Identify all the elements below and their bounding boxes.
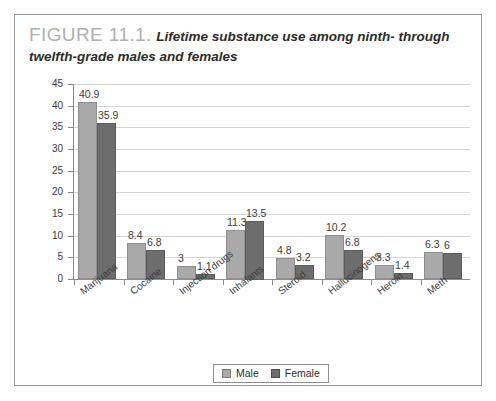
bar-male-marijuana — [78, 102, 97, 279]
bar-value-label: 3 — [178, 253, 184, 264]
bar-value-label: 10.2 — [326, 222, 346, 233]
gridline — [74, 214, 470, 215]
bar-chart: 051015202530354045 40.935.98.46.831.111.… — [15, 73, 481, 385]
y-axis-label: 45 — [17, 79, 63, 89]
y-axis-label: 10 — [17, 231, 63, 241]
gridline — [74, 84, 470, 85]
bar-male-cocaine — [127, 243, 146, 279]
y-axis-tick — [68, 279, 73, 280]
gridline — [74, 127, 470, 128]
x-axis-tick — [322, 280, 323, 285]
gridline — [74, 149, 470, 150]
gridline — [74, 106, 470, 107]
legend-swatch-male-icon — [222, 369, 231, 378]
y-axis-tick — [68, 127, 73, 128]
y-axis-label: 15 — [17, 209, 63, 219]
y-axis-tick — [68, 171, 73, 172]
bar-value-label: 6.8 — [345, 237, 360, 248]
x-axis-tick — [223, 280, 224, 285]
y-axis-tick — [68, 84, 73, 85]
gridline — [74, 192, 470, 193]
legend-label-female: Female — [285, 368, 320, 379]
legend-item-female: Female — [271, 368, 320, 379]
bar-female-meth — [443, 253, 462, 279]
bar-value-label: 8.4 — [128, 230, 143, 241]
y-axis-tick — [68, 257, 73, 258]
y-axis-label: 30 — [17, 144, 63, 154]
y-axis-tick — [68, 236, 73, 237]
bar-female-marijuana — [97, 123, 116, 279]
y-axis-tick — [68, 214, 73, 215]
bar-value-label: 11.3 — [227, 217, 247, 228]
bar-value-label: 6.3 — [425, 239, 440, 250]
y-axis-tick — [68, 192, 73, 193]
y-axis-label: 0 — [17, 274, 63, 284]
x-axis-tick — [272, 280, 273, 285]
x-axis-tick — [74, 280, 75, 285]
bar-value-label: 6 — [444, 240, 450, 251]
figure-caption: FIGURE 11.1. Lifetime substance use amon… — [29, 25, 465, 66]
bar-value-label: 3.2 — [296, 252, 311, 263]
y-axis-label: 35 — [17, 122, 63, 132]
bar-male-hallucinogens — [325, 235, 344, 279]
y-axis-label: 40 — [17, 101, 63, 111]
y-axis-tick — [68, 106, 73, 107]
x-axis-tick — [173, 280, 174, 285]
y-axis-label: 20 — [17, 187, 63, 197]
gridline — [74, 171, 470, 172]
legend-item-male: Male — [222, 368, 259, 379]
x-axis-tick — [371, 280, 372, 285]
bar-value-label: 40.9 — [79, 89, 99, 100]
y-axis-tick — [68, 149, 73, 150]
figure-card: FIGURE 11.1. Lifetime substance use amon… — [14, 14, 482, 386]
bar-value-label: 4.8 — [277, 245, 292, 256]
chart-legend: Male Female — [213, 364, 329, 383]
bar-value-label: 6.8 — [147, 237, 162, 248]
y-axis-label: 5 — [17, 252, 63, 262]
legend-label-male: Male — [236, 368, 259, 379]
x-axis-tick — [124, 280, 125, 285]
y-axis-line — [73, 84, 74, 280]
bar-value-label: 13.5 — [246, 208, 266, 219]
legend-swatch-female-icon — [271, 369, 280, 378]
x-axis-tick — [421, 280, 422, 285]
bar-value-label: 35.9 — [98, 110, 118, 121]
y-axis-label: 25 — [17, 166, 63, 176]
figure-number: FIGURE 11.1. — [29, 24, 152, 45]
